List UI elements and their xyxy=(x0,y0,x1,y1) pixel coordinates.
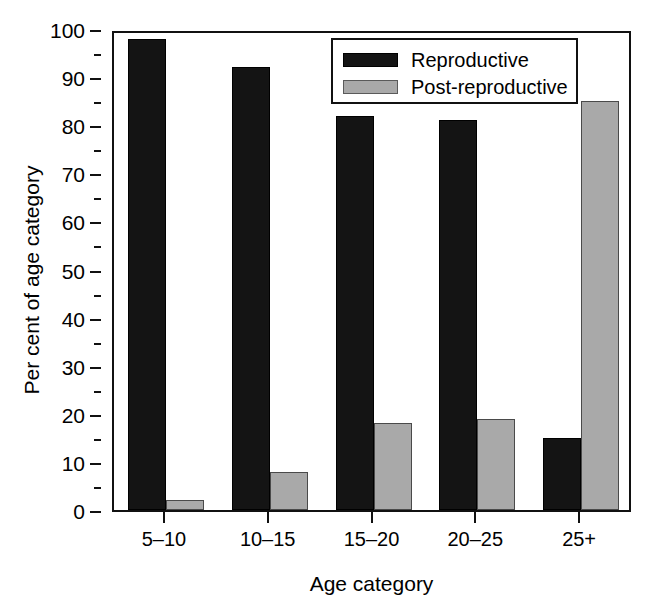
y-axis: 0102030405060708090100 xyxy=(0,0,112,616)
y-tick-label: 90 xyxy=(62,68,85,89)
x-tick-label: 15–20 xyxy=(344,528,400,550)
bar-reproductive xyxy=(128,39,166,510)
x-axis-title: Age category xyxy=(112,572,631,596)
y-tick-minor xyxy=(94,102,101,104)
y-tick-label: 40 xyxy=(62,309,85,330)
y-tick-major xyxy=(90,415,101,417)
y-tick-major xyxy=(90,319,101,321)
y-tick-major xyxy=(90,271,101,273)
y-tick-major xyxy=(90,463,101,465)
y-tick-minor xyxy=(94,439,101,441)
y-tick-label: 0 xyxy=(73,501,85,522)
y-tick-label: 100 xyxy=(50,20,85,41)
y-tick-minor xyxy=(94,391,101,393)
legend-entry-post-reproductive: Post-reproductive xyxy=(343,73,576,100)
y-tick-label: 80 xyxy=(62,116,85,137)
bar-reproductive xyxy=(232,67,270,510)
bar-reproductive xyxy=(336,116,374,510)
y-tick-minor xyxy=(94,295,101,297)
y-tick-minor xyxy=(94,246,101,248)
y-tick-label: 60 xyxy=(62,212,85,233)
legend-entry-reproductive: Reproductive xyxy=(343,46,576,73)
bar-post-reproductive xyxy=(477,419,515,510)
bar-post-reproductive xyxy=(166,500,204,510)
y-tick-major xyxy=(90,222,101,224)
y-tick-major xyxy=(90,126,101,128)
bar-reproductive xyxy=(543,438,581,510)
y-tick-label: 20 xyxy=(62,405,85,426)
legend-label: Reproductive xyxy=(411,49,529,71)
y-axis-title: Per cent of age category xyxy=(20,130,44,430)
bar-chart-figure: 0102030405060708090100 5–1010–1515–2020–… xyxy=(0,0,653,616)
y-tick-minor xyxy=(94,198,101,200)
bar-post-reproductive xyxy=(270,472,308,510)
y-tick-major xyxy=(90,367,101,369)
y-tick-major xyxy=(90,78,101,80)
x-tick xyxy=(163,512,165,523)
x-tick-label: 10–15 xyxy=(240,528,296,550)
legend-swatch-icon xyxy=(343,53,398,67)
y-tick-label: 10 xyxy=(62,453,85,474)
legend-swatch-icon xyxy=(343,80,398,94)
x-tick-label: 20–25 xyxy=(447,528,503,550)
y-tick-major xyxy=(90,174,101,176)
x-tick xyxy=(578,512,580,523)
y-tick-minor xyxy=(94,487,101,489)
x-tick xyxy=(474,512,476,523)
chart-legend: Reproductive Post-reproductive xyxy=(331,38,578,104)
y-tick-label: 30 xyxy=(62,357,85,378)
bar-post-reproductive xyxy=(374,423,412,510)
y-tick-label: 70 xyxy=(62,164,85,185)
y-tick-minor xyxy=(94,54,101,56)
bar-post-reproductive xyxy=(581,101,619,510)
y-tick-major xyxy=(90,30,101,32)
y-tick-major xyxy=(90,511,101,513)
bar-reproductive xyxy=(439,120,477,510)
y-tick-minor xyxy=(94,343,101,345)
x-tick xyxy=(371,512,373,523)
x-tick xyxy=(267,512,269,523)
y-tick-label: 50 xyxy=(62,261,85,282)
legend-label: Post-reproductive xyxy=(411,76,568,98)
x-tick-label: 25+ xyxy=(562,528,596,550)
x-tick-label: 5–10 xyxy=(142,528,187,550)
y-tick-minor xyxy=(94,150,101,152)
